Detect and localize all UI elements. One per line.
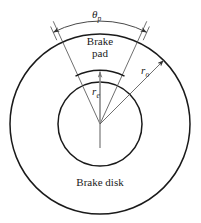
theta-p-left-extension-tick xyxy=(51,27,57,41)
brake-pad-label-line2: pad xyxy=(63,48,137,60)
theta-p-symbol: θ xyxy=(92,8,97,20)
theta-p-right-extension-tick xyxy=(143,27,149,41)
r-outer-label: ro xyxy=(141,65,149,77)
brake-pad-label: Brake pad xyxy=(63,36,137,60)
brake-disk-label: Brake disk xyxy=(58,177,142,189)
r-outer-dimension-arrow xyxy=(100,60,164,124)
r-inner-label: re xyxy=(92,86,100,98)
r-outer-subscript: o xyxy=(145,70,149,79)
r-inner-subscript: e xyxy=(96,91,99,100)
diagram-canvas xyxy=(0,0,201,223)
theta-p-subscript: p xyxy=(98,14,102,23)
theta-p-label: θp xyxy=(92,9,101,21)
brake-disk-diagram: Brake pad Brake disk θp ro re xyxy=(0,0,201,223)
